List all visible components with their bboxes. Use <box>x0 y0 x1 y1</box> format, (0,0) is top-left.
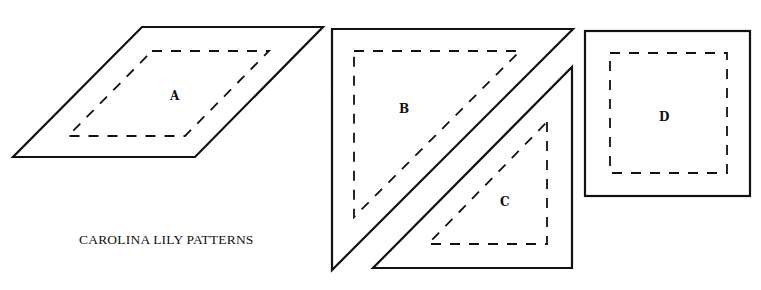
piece-c-seam-line <box>428 122 547 244</box>
piece-b-outline <box>332 29 573 270</box>
piece-b-label: B <box>399 102 409 116</box>
piece-a-outline <box>13 27 323 157</box>
piece-a-seam-line <box>68 51 269 136</box>
piece-d-label: D <box>659 110 669 124</box>
piece-a: A <box>13 27 323 157</box>
piece-c-label: C <box>500 195 510 209</box>
piece-b-seam-line <box>354 51 520 217</box>
piece-b: B <box>332 29 573 270</box>
diagram-caption: CAROLINA LILY PATTERNS <box>79 232 254 248</box>
piece-a-label: A <box>169 89 180 103</box>
piece-d: D <box>585 31 750 196</box>
